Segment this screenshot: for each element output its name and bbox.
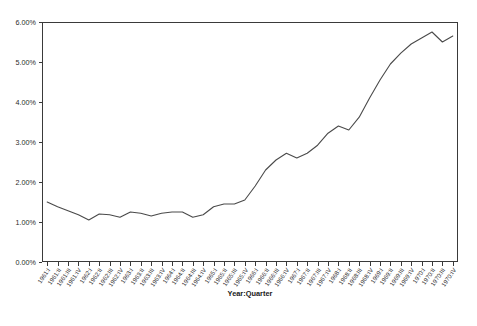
y-tick-label: 2.00% (16, 178, 37, 187)
y-tick-label: 1.00% (16, 218, 37, 227)
y-tick-label: 5.00% (16, 58, 37, 67)
y-tick-label: 6.00% (16, 18, 37, 27)
quarterly-rate-line-chart: 0.00%1.00%2.00%3.00%4.00%5.00%6.00% 1961… (0, 0, 477, 326)
y-tick-label: 0.00% (16, 258, 37, 267)
y-tick-label: 4.00% (16, 98, 37, 107)
x-axis-title: Year:Quarter (228, 289, 273, 298)
y-tick-label: 3.00% (16, 138, 37, 147)
chart-screenshot: 0.00%1.00%2.00%3.00%4.00%5.00%6.00% 1961… (0, 0, 477, 326)
